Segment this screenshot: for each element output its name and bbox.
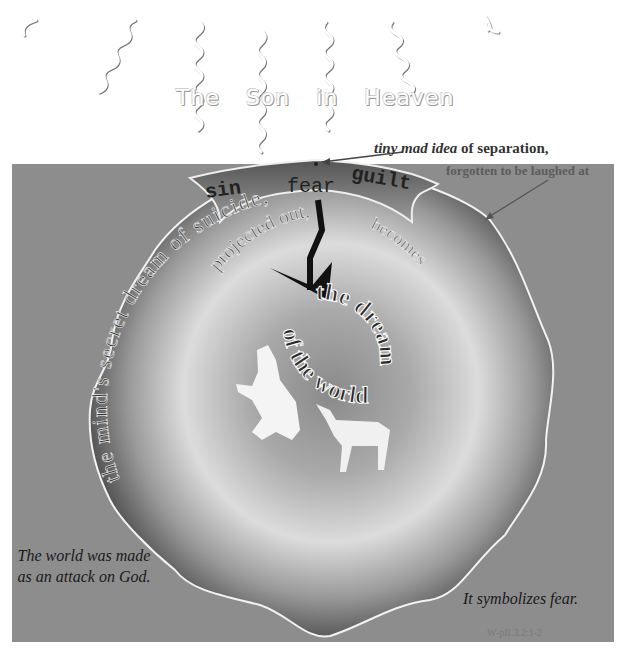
annotation-origin-rest: of separation,	[457, 140, 548, 156]
annotation-forgotten: forgotten to be laughed at	[446, 163, 589, 179]
caption-right: It symbolizes fear.	[463, 590, 578, 608]
annotation-origin: tiny mad idea of separation,	[374, 140, 549, 157]
annotation-origin-italic: tiny mad idea	[374, 140, 457, 156]
citation: W-pII.3.2:1-2	[487, 627, 542, 638]
caption-left: The world was made as an attack on God.	[14, 545, 154, 587]
banner-word-fear: fear	[287, 175, 335, 198]
pointer-arrow-sub	[487, 180, 548, 218]
origin-dot	[314, 162, 318, 166]
